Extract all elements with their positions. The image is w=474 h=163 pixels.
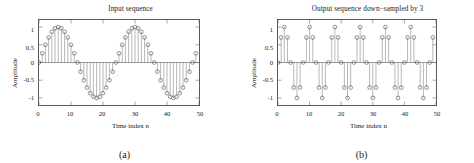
panel-a-xtick-4: 40: [158, 110, 176, 117]
panel-a-xlabel: Time index n: [0, 122, 237, 130]
panel-b-xlabel: Time index n: [237, 122, 474, 130]
panel-b-xtick-1: 10: [300, 110, 318, 117]
panel-b-ytick-1: 0.5: [251, 44, 273, 51]
panel-b-xtick-0: 0: [268, 110, 286, 117]
panel-b-xtick-2: 20: [332, 110, 350, 117]
panel-b-title: Output sequence down−sampled by 3: [237, 5, 474, 13]
panel-b: Output sequence down−sampled by 3 1 0.5 …: [237, 0, 474, 163]
panel-a-ylabel: Amplitude: [11, 58, 19, 88]
panel-a-xtick-2: 20: [93, 110, 111, 117]
panel-a-stem-plot: [39, 20, 199, 105]
panel-a-xtick-3: 30: [126, 110, 144, 117]
panel-b-ytick-0: 1: [251, 26, 273, 33]
panel-a-title: Input sequence: [0, 5, 237, 13]
panel-b-caption: (b): [237, 149, 474, 160]
panel-a-ytick-1: 0.5: [12, 44, 34, 51]
panel-b-stem-plot: [278, 20, 436, 105]
panel-b-xtick-4: 40: [396, 110, 414, 117]
panel-a-xtick-0: 0: [29, 110, 47, 117]
panel-b-plot-area: [277, 19, 437, 106]
panel-b-ytick-4: -1: [251, 94, 273, 101]
panel-a-plot-area: [38, 19, 200, 106]
panel-b-xtick-5: 50: [428, 110, 446, 117]
panel-b-ylabel: Amplitude: [250, 58, 258, 88]
figure-container: Input sequence 1 0.5 0 -0.5 -1 Amplitude…: [0, 0, 474, 163]
panel-a-xtick-1: 10: [61, 110, 79, 117]
panel-b-xtick-3: 30: [364, 110, 382, 117]
panel-a-caption: (a): [0, 149, 237, 160]
panel-a-xtick-5: 50: [191, 110, 209, 117]
panel-a: Input sequence 1 0.5 0 -0.5 -1 Amplitude…: [0, 0, 237, 163]
panel-a-ytick-0: 1: [12, 26, 34, 33]
panel-a-ytick-4: -1: [12, 94, 34, 101]
